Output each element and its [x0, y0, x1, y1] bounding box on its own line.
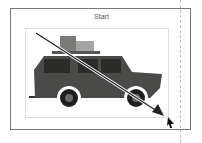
arrowhead-icon — [152, 104, 164, 116]
cursor-icon — [167, 117, 174, 128]
car-illustration — [0, 0, 202, 143]
